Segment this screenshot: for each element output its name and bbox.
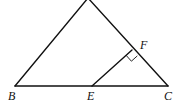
label-b: B (8, 89, 16, 103)
right-angle-marker (126, 55, 137, 61)
triangle-diagram: B E C F (0, 0, 182, 105)
label-e: E (86, 89, 95, 103)
label-c: C (164, 89, 173, 103)
segment-ab (15, 0, 88, 86)
segment-ac (88, 0, 168, 86)
label-f: F (139, 38, 148, 52)
